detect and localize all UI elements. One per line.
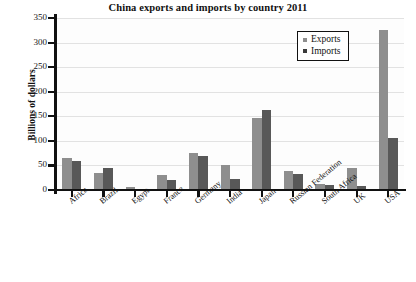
chart-container: China exports and imports by country 201… — [0, 0, 416, 282]
y-axis-tick — [48, 42, 57, 44]
x-axis-tick-label: UK — [352, 191, 367, 206]
y-axis-tick — [48, 115, 57, 117]
bar-imports-africa — [72, 161, 82, 190]
y-axis-tick-label: 50 — [1, 159, 47, 169]
bar-imports-japan — [262, 110, 272, 190]
gridline — [56, 67, 404, 68]
y-axis-tick-label: 250 — [1, 61, 47, 71]
y-axis-tick — [48, 140, 57, 142]
bar-imports-germany — [198, 156, 208, 190]
legend-label-imports: Imports — [311, 46, 341, 58]
bar-exports-japan — [252, 118, 262, 190]
chart-title: China exports and imports by country 201… — [0, 2, 416, 13]
y-axis-tick-labels: 050100150200250300350 — [0, 0, 47, 282]
gridline — [56, 141, 404, 142]
y-axis-tick-label: 200 — [1, 86, 47, 96]
y-axis-tick-label: 100 — [1, 135, 47, 145]
gridline — [56, 92, 404, 93]
gridline — [56, 43, 404, 44]
y-axis-tick-label: 300 — [1, 37, 47, 47]
plot-area — [56, 18, 404, 190]
exports-swatch-icon — [303, 38, 307, 42]
gridline — [56, 116, 404, 117]
bar-exports-germany — [189, 153, 199, 190]
y-axis-tick-label: 0 — [1, 184, 47, 194]
bar-imports-usa — [388, 138, 398, 190]
bar-exports-africa — [62, 158, 72, 190]
gridline — [56, 165, 404, 166]
imports-swatch-icon — [303, 49, 307, 53]
legend-item-imports: Imports — [303, 46, 341, 58]
y-axis-tick-label: 350 — [1, 12, 47, 22]
chart-legend: Exports Imports — [297, 31, 349, 61]
bar-exports-usa — [379, 30, 389, 190]
gridline — [56, 18, 404, 19]
y-axis-tick — [48, 189, 57, 191]
bar-exports-brazil — [94, 173, 104, 190]
y-axis-tick-label: 150 — [1, 110, 47, 120]
y-axis-tick — [48, 91, 57, 93]
y-axis-tick — [48, 17, 57, 19]
bar-exports-russian-federation — [284, 171, 294, 190]
y-axis-tick — [48, 164, 57, 166]
legend-item-exports: Exports — [303, 34, 341, 46]
y-axis-tick — [48, 66, 57, 68]
legend-label-exports: Exports — [311, 34, 341, 46]
